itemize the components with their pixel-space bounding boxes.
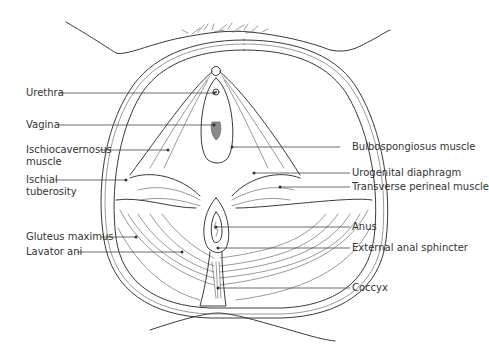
label-ischial-tuberosity: Ischial bbox=[26, 174, 58, 186]
label-ischial-tuberosity-line2: tuberosity bbox=[26, 186, 77, 198]
label-bulbospongiosus: Bulbospongiosus muscle bbox=[352, 141, 475, 153]
label-vagina: Vagina bbox=[26, 119, 60, 131]
leader-lines bbox=[55, 92, 350, 290]
label-gluteus-maximus: Gluteus maximus bbox=[26, 231, 114, 243]
label-transverse-perineal: Transverse perineal muscle bbox=[352, 181, 489, 193]
label-coccyx: Coccyx bbox=[352, 282, 388, 294]
body-contour-bottom bbox=[150, 313, 335, 341]
clitoris bbox=[212, 67, 221, 76]
transverse-band bbox=[116, 175, 372, 208]
label-ischiocavernosus-line2: muscle bbox=[26, 156, 62, 168]
anal-sphincter bbox=[204, 198, 229, 253]
label-urogenital-diaphragm: Urogenital diaphragm bbox=[352, 167, 461, 179]
skin-outline bbox=[101, 40, 388, 318]
label-anus: Anus bbox=[352, 221, 377, 233]
body-contour-top bbox=[66, 22, 390, 53]
label-lavator-ani: Lavator ani bbox=[26, 246, 82, 258]
anterior-muscles bbox=[130, 72, 300, 175]
label-ischiocavernosus: Ischiocavernosus bbox=[26, 144, 112, 156]
levator-ani-fan bbox=[118, 210, 370, 300]
label-urethra: Urethra bbox=[26, 87, 64, 99]
anococcygeal-body bbox=[200, 252, 226, 306]
label-external-anal-sphincter: External anal sphincter bbox=[352, 242, 468, 254]
